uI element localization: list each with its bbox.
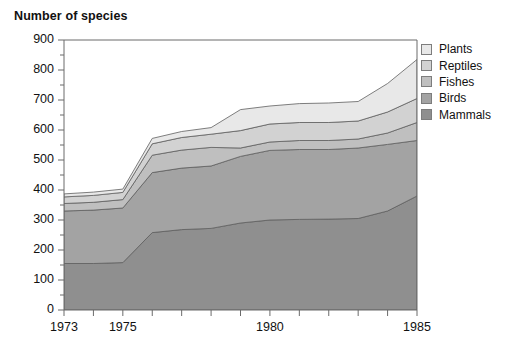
chart-title: Number of species [14,9,128,23]
y-tick-label-200: 200 [10,242,54,256]
y-tick-label-300: 300 [10,212,54,226]
y-tick-label-900: 900 [10,32,54,46]
y-tick-label-500: 500 [10,152,54,166]
legend-label: Reptiles [439,60,482,72]
legend-label: Birds [439,92,466,104]
x-tick-label-1985: 1985 [394,320,440,334]
series-layers [64,60,417,311]
legend-label: Mammals [439,109,491,121]
x-tick-label-1980: 1980 [247,320,293,334]
legend-label: Fishes [439,76,474,88]
chart-legend: PlantsReptilesFishesBirdsMammals [421,41,513,123]
legend-swatch-plants [421,44,432,55]
legend-swatch-mammals [421,109,432,120]
legend-item-reptiles[interactable]: Reptiles [421,57,513,73]
legend-swatch-birds [421,93,432,104]
y-tick-label-0: 0 [10,302,54,316]
chart-figure: Number of species 0100200300400500600700… [0,0,522,350]
legend-swatch-fishes [421,76,432,87]
legend-item-birds[interactable]: Birds [421,90,513,106]
legend-item-mammals[interactable]: Mammals [421,107,513,123]
y-tick-label-600: 600 [10,122,54,136]
y-tick-label-400: 400 [10,182,54,196]
legend-item-plants[interactable]: Plants [421,41,513,57]
x-tick-label-1975: 1975 [100,320,146,334]
legend-label: Plants [439,43,472,55]
legend-swatch-reptiles [421,60,432,71]
legend-item-fishes[interactable]: Fishes [421,74,513,90]
x-tick-label-1973: 1973 [41,320,87,334]
y-tick-label-100: 100 [10,272,54,286]
stacked-area-plot [64,40,417,310]
plot-area [64,40,417,310]
y-tick-label-700: 700 [10,92,54,106]
y-tick-label-800: 800 [10,62,54,76]
